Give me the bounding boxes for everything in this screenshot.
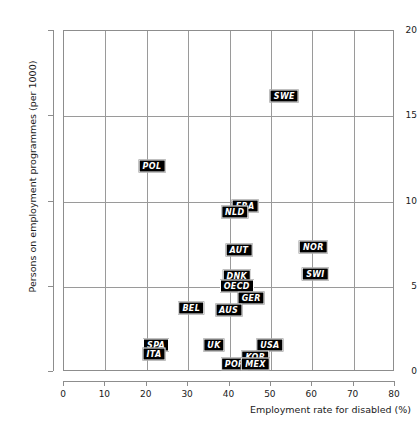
y-axis-rule <box>53 30 54 371</box>
y-axis-tick <box>48 286 53 287</box>
data-point-aus[interactable]: AUS <box>215 303 242 316</box>
x-axis-tick-label: 60 <box>306 389 317 399</box>
x-axis-tick <box>270 381 271 386</box>
y-axis-tick <box>48 371 53 372</box>
x-axis-tick <box>311 381 312 386</box>
x-axis-tick <box>187 381 188 386</box>
x-axis-tick <box>104 381 105 386</box>
y-axis-tick-label: 15 <box>373 110 417 120</box>
scatter-chart-figure: Employment rate for disabled (%) Persons… <box>0 0 417 439</box>
y-axis-tick-label: 5 <box>373 281 417 291</box>
x-axis-tick <box>353 381 354 386</box>
data-point-aut[interactable]: AUT <box>226 243 253 256</box>
gridline-vertical <box>312 31 313 370</box>
x-axis-tick <box>146 381 147 386</box>
x-axis-tick-label: 70 <box>347 389 358 399</box>
y-axis-title: Persons on employment programmes (per 10… <box>27 17 38 337</box>
data-point-mex[interactable]: MEX <box>241 358 270 371</box>
x-axis-tick-label: 10 <box>99 389 110 399</box>
x-axis-tick <box>229 381 230 386</box>
y-axis-tick <box>48 115 53 116</box>
x-axis-tick-label: 80 <box>388 389 399 399</box>
data-point-nor[interactable]: NOR <box>299 240 328 253</box>
gridline-horizontal <box>64 116 393 117</box>
gridline-vertical <box>188 31 189 370</box>
gridline-vertical <box>147 31 148 370</box>
gridline-vertical <box>271 31 272 370</box>
y-axis-tick <box>48 30 53 31</box>
x-axis-tick-label: 20 <box>140 389 151 399</box>
x-axis-title: Employment rate for disabled (%) <box>0 404 411 415</box>
x-axis-tick <box>63 381 64 386</box>
x-axis-tick-label: 40 <box>223 389 234 399</box>
x-axis-tick <box>394 381 395 386</box>
gridline-vertical <box>230 31 231 370</box>
data-point-bel[interactable]: BEL <box>178 301 204 314</box>
data-point-pol[interactable]: POL <box>139 160 166 173</box>
data-point-uk[interactable]: UK <box>203 339 224 352</box>
y-axis-tick-label: 10 <box>373 196 417 206</box>
data-point-swe[interactable]: SWE <box>270 90 299 103</box>
x-axis-tick-label: 50 <box>264 389 275 399</box>
x-axis-tick-label: 30 <box>181 389 192 399</box>
gridline-horizontal <box>64 202 393 203</box>
gridline-vertical <box>105 31 106 370</box>
y-axis-tick <box>48 201 53 202</box>
data-point-nld[interactable]: NLD <box>221 206 248 219</box>
data-point-ita[interactable]: ITA <box>143 347 166 360</box>
y-axis-tick-label: 20 <box>373 25 417 35</box>
plot-area <box>63 30 394 371</box>
y-axis-tick-label: 0 <box>373 366 417 376</box>
data-point-swi[interactable]: SWI <box>302 267 328 280</box>
x-axis-tick-label: 0 <box>60 389 66 399</box>
gridline-vertical <box>354 31 355 370</box>
